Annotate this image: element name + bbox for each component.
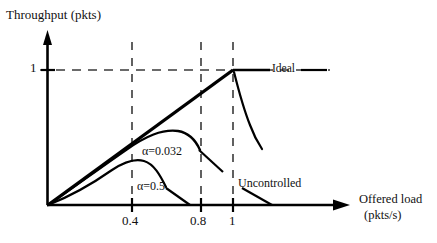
leader-line-uncontrolled xyxy=(242,188,272,205)
y-axis-tick-label-1: 1 xyxy=(30,61,37,75)
x-axis-title-unit: (pkts/s) xyxy=(364,209,402,222)
x-axis-tick-label-1: 1 xyxy=(229,214,236,228)
x-axis-tick-label-0-8: 0.8 xyxy=(190,214,206,228)
throughput-vs-offered-load-chart: Throughput (pkts) 1 0.4 0.8 1 Ideal α=0.… xyxy=(0,0,437,243)
x-axis-arrowhead xyxy=(333,200,350,211)
series-label-alpha-0032: α=0.032 xyxy=(142,145,182,158)
series-line-uncontrolled xyxy=(234,72,262,149)
chart-title: Throughput (pkts) xyxy=(6,8,101,22)
series-label-uncontrolled: Uncontrolled xyxy=(238,177,301,190)
series-label-ideal: Ideal xyxy=(272,62,295,74)
y-axis-arrowhead xyxy=(43,30,52,45)
x-axis-title: Offered load xyxy=(359,193,422,206)
x-axis-tick-label-0-4: 0.4 xyxy=(122,214,138,228)
leader-line-alpha-0032 xyxy=(199,150,223,172)
chart-canvas xyxy=(0,0,437,243)
series-label-alpha-05: α=0.5 xyxy=(137,180,165,193)
leader-line-alpha-05 xyxy=(166,188,190,205)
